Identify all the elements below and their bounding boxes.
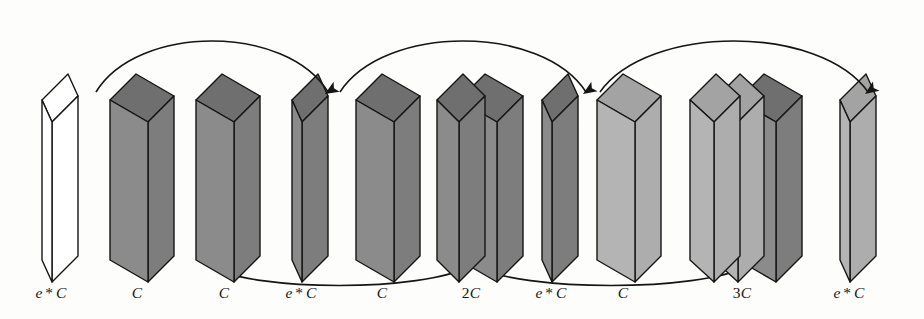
slab-block-8-0 [690, 74, 740, 282]
slab-block-6-0 [542, 74, 578, 282]
feature-map-block [542, 74, 578, 282]
slab-block-5-0 [437, 74, 485, 282]
feature-map-block [110, 74, 174, 282]
feature-map-block [840, 74, 876, 282]
feature-map-group [42, 74, 876, 282]
slab-block-9-0 [840, 74, 876, 282]
slab-block-2-0 [196, 74, 260, 282]
feature-map-block [196, 74, 260, 282]
slab-block-1-0 [110, 74, 174, 282]
feature-map-block [597, 74, 661, 282]
feature-map-block [690, 74, 802, 282]
figure-canvas: e * CCCe * CC2Ce * CC3Ce * C [0, 0, 924, 319]
feature-map-block [437, 74, 523, 282]
slab-block-3-0 [292, 74, 328, 282]
slab-block-7-0 [597, 74, 661, 282]
block-diagram-svg [0, 0, 924, 319]
slab-block-4-0 [356, 74, 420, 282]
feature-map-block [42, 74, 78, 282]
slab-block-0-0 [42, 74, 78, 282]
feature-map-block [356, 74, 420, 282]
feature-map-block [292, 74, 328, 282]
